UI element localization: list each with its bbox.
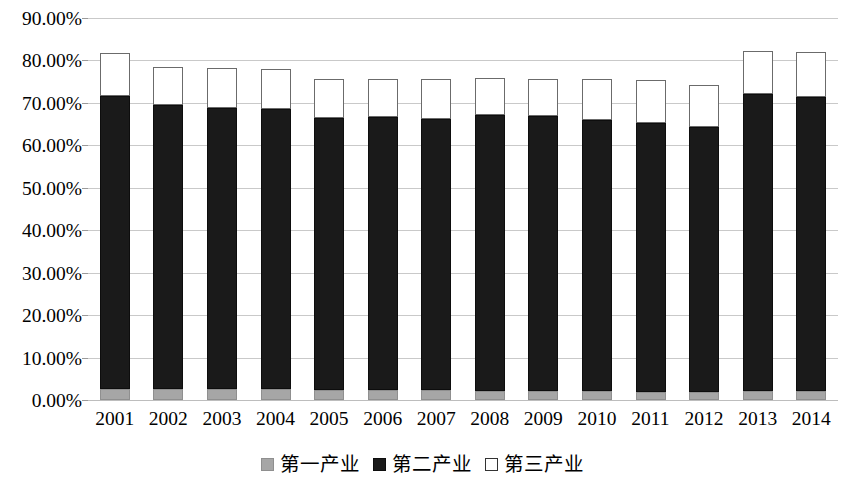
- x-axis-tick-label: 2013: [731, 407, 785, 430]
- bar-segment-3[interactable]: [153, 67, 183, 105]
- y-axis-tick: [82, 103, 88, 104]
- bar-segment-1[interactable]: [743, 391, 773, 400]
- bar-segment-3[interactable]: [207, 68, 237, 107]
- bar-stack[interactable]: [314, 79, 344, 400]
- legend-item[interactable]: 第一产业: [261, 455, 360, 475]
- bar-segment-3[interactable]: [475, 78, 505, 115]
- bar-stack[interactable]: [528, 79, 558, 400]
- y-axis-tick: [82, 18, 88, 19]
- bar-segment-3[interactable]: [100, 53, 130, 96]
- bar-segment-2[interactable]: [261, 109, 291, 390]
- gridline: [88, 358, 838, 359]
- bar-stack[interactable]: [261, 69, 291, 400]
- y-axis-tick: [82, 60, 88, 61]
- x-axis-tick-label: 2002: [142, 407, 196, 430]
- x-axis-tick-label: 2011: [624, 407, 678, 430]
- y-axis-tick-label: 90.00%: [0, 9, 82, 29]
- gridline: [88, 188, 838, 189]
- bar-segment-1[interactable]: [689, 392, 719, 400]
- bar-segment-1[interactable]: [153, 389, 183, 400]
- bar-segment-2[interactable]: [582, 120, 612, 391]
- bar-segment-1[interactable]: [261, 389, 291, 400]
- bar-segment-3[interactable]: [689, 85, 719, 127]
- bar-segment-3[interactable]: [314, 79, 344, 118]
- x-axis-tick-label: 2012: [677, 407, 731, 430]
- gridline: [88, 230, 838, 231]
- bar-segment-2[interactable]: [314, 118, 344, 390]
- bar-stack[interactable]: [743, 51, 773, 400]
- y-axis-tick: [82, 188, 88, 189]
- bar-segment-1[interactable]: [368, 390, 398, 400]
- bar-segment-1[interactable]: [796, 391, 826, 400]
- bar-stack[interactable]: [153, 67, 183, 400]
- y-axis-tick: [82, 358, 88, 359]
- stacked-bar-chart: 0.00%10.00%20.00%30.00%40.00%50.00%60.00…: [0, 0, 845, 486]
- bar-segment-1[interactable]: [314, 390, 344, 400]
- bar-segment-2[interactable]: [100, 96, 130, 389]
- bar-segment-2[interactable]: [368, 117, 398, 390]
- bar-stack[interactable]: [421, 79, 451, 400]
- bar-segment-3[interactable]: [421, 79, 451, 119]
- x-axis-tick-label: 2010: [570, 407, 624, 430]
- y-axis-labels: 0.00%10.00%20.00%30.00%40.00%50.00%60.00…: [0, 0, 82, 486]
- bar-segment-2[interactable]: [207, 108, 237, 390]
- bar-segment-3[interactable]: [261, 69, 291, 109]
- bar-segment-2[interactable]: [636, 123, 666, 391]
- bar-segment-2[interactable]: [689, 127, 719, 391]
- bar-stack[interactable]: [689, 85, 719, 400]
- gridline: [88, 273, 838, 274]
- bar-segment-3[interactable]: [796, 52, 826, 96]
- y-axis-tick: [82, 273, 88, 274]
- bar-segment-1[interactable]: [421, 390, 451, 400]
- y-axis-tick-label: 40.00%: [0, 221, 82, 241]
- bar-segment-1[interactable]: [100, 389, 130, 400]
- black-filled-square-icon: [373, 458, 386, 471]
- bar-segment-3[interactable]: [528, 79, 558, 116]
- bar-segment-2[interactable]: [475, 115, 505, 391]
- y-axis-tick: [82, 145, 88, 146]
- y-axis-tick: [82, 400, 88, 401]
- bar-segment-3[interactable]: [368, 79, 398, 117]
- bar-segment-1[interactable]: [636, 392, 666, 400]
- bar-segment-1[interactable]: [475, 391, 505, 400]
- x-axis-tick-label: 2008: [463, 407, 517, 430]
- legend-item[interactable]: 第三产业: [485, 455, 584, 475]
- y-axis-tick-label: 30.00%: [0, 264, 82, 284]
- y-axis-tick-label: 60.00%: [0, 136, 82, 156]
- bar-segment-2[interactable]: [528, 116, 558, 391]
- y-axis-tick-label: 20.00%: [0, 306, 82, 326]
- bar-stack[interactable]: [207, 68, 237, 400]
- x-axis-tick-label: 2007: [409, 407, 463, 430]
- bar-stack[interactable]: [582, 79, 612, 400]
- gridline: [88, 315, 838, 316]
- gridline: [88, 145, 838, 146]
- y-axis-tick-label: 10.00%: [0, 349, 82, 369]
- y-axis-tick: [82, 315, 88, 316]
- bar-segment-3[interactable]: [743, 51, 773, 95]
- x-axis-tick-label: 2004: [249, 407, 303, 430]
- bar-segment-1[interactable]: [582, 391, 612, 400]
- bar-stack[interactable]: [100, 53, 130, 400]
- y-axis-tick-label: 80.00%: [0, 51, 82, 71]
- bar-segment-2[interactable]: [153, 105, 183, 389]
- white-outline-square-icon: [485, 458, 498, 471]
- y-axis-tick-label: 0.00%: [0, 391, 82, 411]
- bar-stack[interactable]: [796, 52, 826, 400]
- gridline: [88, 60, 838, 61]
- legend-label: 第三产业: [504, 455, 584, 475]
- legend-item[interactable]: 第二产业: [373, 455, 472, 475]
- gray-filled-square-icon: [261, 458, 274, 471]
- bar-stack[interactable]: [475, 78, 505, 400]
- x-axis-tick-label: 2009: [517, 407, 571, 430]
- bar-segment-3[interactable]: [582, 79, 612, 120]
- bar-stack[interactable]: [636, 80, 666, 400]
- x-axis-labels: 2001200220032004200520062007200820092010…: [88, 407, 838, 435]
- y-axis-tick-label: 70.00%: [0, 94, 82, 114]
- bar-segment-2[interactable]: [421, 119, 451, 390]
- bar-segment-2[interactable]: [796, 97, 826, 392]
- bar-segment-1[interactable]: [207, 389, 237, 400]
- bar-segment-3[interactable]: [636, 80, 666, 123]
- bar-stack[interactable]: [368, 79, 398, 400]
- bar-segment-2[interactable]: [743, 94, 773, 391]
- bar-segment-1[interactable]: [528, 391, 558, 400]
